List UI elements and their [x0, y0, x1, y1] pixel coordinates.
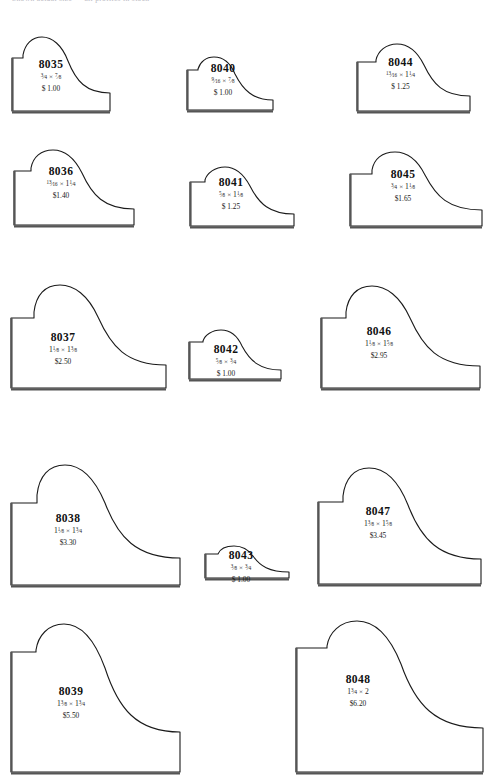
caption-8046: 8046 11⁄8×15⁄8 $2.95: [333, 325, 425, 360]
item-code: 8039: [25, 685, 117, 699]
item-code: 8041: [191, 176, 271, 190]
item-dimensions: 5⁄8×3⁄4: [190, 358, 262, 367]
item-code: 8037: [18, 331, 108, 345]
caption-8039: 8039 13⁄8×13⁄4 $5.50: [25, 685, 117, 720]
item-code: 8047: [332, 505, 424, 519]
item-price: $ 1.00: [190, 370, 262, 379]
caption-8038: 8038 11⁄8×13⁄4 $3.30: [22, 512, 114, 547]
item-price: $3.30: [22, 539, 114, 548]
item-code: 8046: [333, 325, 425, 339]
item-dimensions: 13⁄8×15⁄8: [332, 520, 424, 529]
item-dimensions: 13⁄16×11⁄4: [16, 180, 106, 189]
item-price: $ 1.00: [12, 85, 90, 94]
item-price: $1.65: [360, 195, 446, 204]
item-price: $2.95: [333, 352, 425, 361]
item-dimensions: 5⁄8×11⁄8: [191, 191, 271, 200]
item-dimensions: 11⁄8×15⁄8: [333, 340, 425, 349]
caption-8036: 8036 13⁄16×11⁄4 $1.40: [16, 165, 106, 200]
item-price: $ 1.25: [358, 83, 443, 92]
item-price: $ 1.25: [191, 203, 271, 212]
caption-8037: 8037 11⁄8×13⁄8 $2.50: [18, 331, 108, 366]
item-code: 8043: [207, 549, 275, 563]
caption-8041: 8041 5⁄8×11⁄8 $ 1.25: [191, 176, 271, 211]
page-running-head: Shown actual size — all profiles in stoc…: [0, 0, 494, 6]
item-dimensions: 13⁄8×13⁄4: [25, 700, 117, 709]
item-code: 8038: [22, 512, 114, 526]
caption-8047: 8047 13⁄8×15⁄8 $3.45: [332, 505, 424, 540]
item-price: $ 1.00: [207, 576, 275, 585]
item-code: 8042: [190, 343, 262, 357]
item-dimensions: 3⁄8×3⁄4: [207, 564, 275, 573]
item-dimensions: 13⁄4×2: [312, 688, 404, 697]
caption-8044: 8044 13⁄16×11⁄4 $ 1.25: [358, 56, 443, 91]
item-code: 8048: [312, 673, 404, 687]
item-dimensions: 13⁄16×11⁄4: [358, 71, 443, 80]
item-dimensions: 11⁄8×13⁄4: [22, 527, 114, 536]
item-price: $3.45: [332, 532, 424, 541]
item-dimensions: 11⁄8×13⁄8: [18, 346, 108, 355]
item-code: 8040: [187, 62, 259, 76]
item-dimensions: 3⁄4×11⁄8: [360, 183, 446, 192]
item-code: 8045: [360, 168, 446, 182]
item-code: 8044: [358, 56, 443, 70]
item-price: $1.40: [16, 192, 106, 201]
caption-8042: 8042 5⁄8×3⁄4 $ 1.00: [190, 343, 262, 378]
item-price: $6.20: [312, 700, 404, 709]
item-code: 8035: [12, 58, 90, 72]
catalog-page: Shown actual size — all profiles in stoc…: [0, 0, 494, 781]
caption-8043: 8043 3⁄8×3⁄4 $ 1.00: [207, 549, 275, 584]
caption-8048: 8048 13⁄4×2 $6.20: [312, 673, 404, 708]
item-dimensions: 9⁄16×7⁄8: [187, 77, 259, 86]
item-dimensions: 3⁄4×7⁄8: [12, 73, 90, 82]
caption-8040: 8040 9⁄16×7⁄8 $ 1.00: [187, 62, 259, 97]
item-price: $ 1.00: [187, 89, 259, 98]
caption-8045: 8045 3⁄4×11⁄8 $1.65: [360, 168, 446, 203]
item-price: $5.50: [25, 712, 117, 721]
item-price: $2.50: [18, 358, 108, 367]
item-code: 8036: [16, 165, 106, 179]
caption-8035: 8035 3⁄4×7⁄8 $ 1.00: [12, 58, 90, 93]
